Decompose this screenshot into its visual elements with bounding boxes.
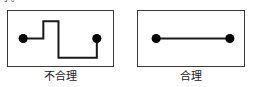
endpoint-node-right [225,34,234,43]
caption-unreasonable: 不合理 [7,70,114,84]
connection-path-zigzag [23,21,97,58]
figure-root: 小。 不合理 合理 [0,0,253,87]
endpoint-node-left [19,34,28,43]
caption-reasonable: 合理 [137,70,245,84]
zigzag-routing-illustration [8,11,113,66]
diagram-panel-unreasonable [7,10,114,67]
clipped-header-text: 小。 [2,0,20,3]
endpoint-node-left [152,34,161,43]
endpoint-node-right [92,34,101,43]
straight-routing-illustration [138,11,244,66]
diagram-panel-reasonable [137,10,245,67]
